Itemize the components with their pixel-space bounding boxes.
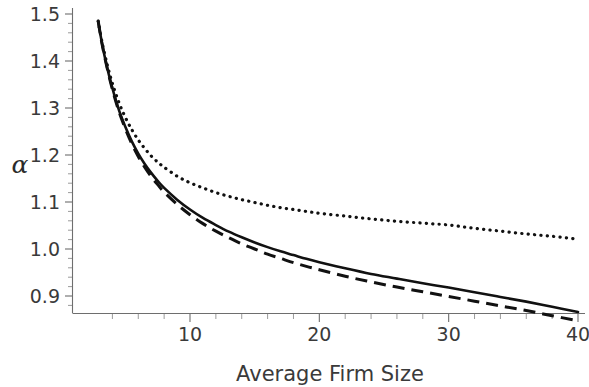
y-tick-label: 1.2 (30, 144, 60, 166)
y-tick-label: 1.3 (30, 97, 60, 119)
y-tick-label: 1.1 (30, 191, 60, 213)
x-tick-label: 30 (437, 323, 461, 345)
plot-canvas: 0.91.01.11.21.31.41.5 10203040 Average F… (0, 0, 589, 387)
x-tick-label: 10 (178, 323, 202, 345)
y-tick-label: 0.9 (30, 285, 60, 307)
x-axis-tick-labels: 10203040 (178, 323, 589, 345)
x-tick-label: 40 (566, 323, 589, 345)
x-tick-label: 20 (307, 323, 331, 345)
y-axis-title: α (12, 150, 29, 179)
curve-dotted (98, 21, 578, 239)
chart-figure: 0.91.01.11.21.31.41.5 10203040 Average F… (0, 0, 589, 387)
y-tick-label: 1.4 (30, 50, 60, 72)
y-axis-tick-labels: 0.91.01.11.21.31.41.5 (30, 3, 60, 307)
x-axis-major-ticks (190, 313, 578, 322)
x-axis-title: Average Firm Size (236, 362, 424, 386)
curve-solid (98, 21, 578, 312)
y-axis-major-ticks (65, 14, 73, 296)
y-tick-label: 1.0 (30, 238, 60, 260)
curve-dashed (98, 21, 578, 321)
y-tick-label: 1.5 (30, 3, 60, 25)
